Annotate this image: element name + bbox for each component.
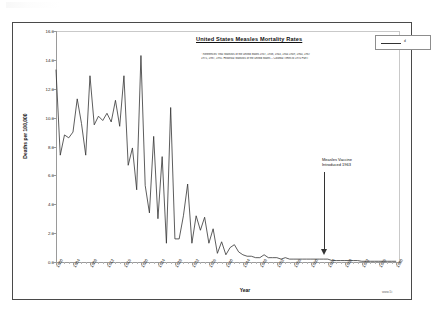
vaccine-annotation-text: Measles Vaccine Introduced 1963 [322,157,352,168]
vaccine-annotation-arrowhead [321,249,327,255]
y-axis-tick-mark [52,262,56,263]
vaccine-annotation-arrow [324,172,325,252]
y-axis-tick-mark [52,204,56,205]
y-axis-tick-mark [52,60,56,61]
y-axis-tick-mark [52,118,56,119]
y-axis-tick-mark [52,147,56,148]
y-axis-tick-mark [52,31,56,32]
watermark: www.5i [382,290,392,294]
y-axis-tick-mark [52,89,56,90]
y-axis-tick-mark [52,233,56,234]
y-axis-tick-mark [52,175,56,176]
vaccine-annotation-line-2: Introduced 1963 [322,162,352,167]
